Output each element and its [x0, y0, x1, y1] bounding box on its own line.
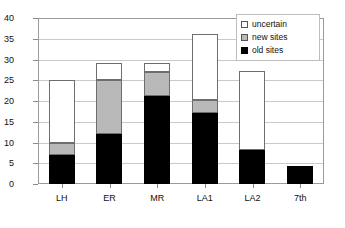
- x-axis-tick-mark: [253, 184, 254, 188]
- bar-segment-old-sites[interactable]: [239, 150, 265, 184]
- bar-slot: [86, 18, 134, 184]
- bar-segment-uncertain[interactable]: [144, 63, 170, 72]
- bar-segment-uncertain[interactable]: [49, 80, 75, 142]
- x-axis-label-la1: LA1: [178, 193, 232, 203]
- legend-item-new-sites: new sites: [241, 31, 315, 44]
- y-axis-tick-label: 30: [0, 56, 14, 65]
- square-black-swatch-icon: [241, 47, 248, 54]
- y-axis-tick-label: 20: [0, 97, 14, 106]
- x-axis-tick-mark: [205, 184, 206, 188]
- bar-slot: [181, 18, 229, 184]
- bar-segment-new-sites[interactable]: [96, 80, 122, 134]
- x-axis-tick-mark: [62, 184, 63, 188]
- chart-legend: uncertain new sites old sites: [236, 14, 320, 61]
- x-axis-label-er: ER: [83, 193, 137, 203]
- bar-7th[interactable]: [287, 166, 313, 184]
- bar-segment-uncertain[interactable]: [96, 63, 122, 80]
- stacked-bar-chart: 0510152025303540 LHERMRLA1LA27th uncerta…: [0, 0, 345, 228]
- bar-segment-uncertain[interactable]: [192, 34, 218, 100]
- bar-segment-old-sites[interactable]: [144, 96, 170, 184]
- bar-segment-old-sites[interactable]: [287, 166, 313, 184]
- bar-la1[interactable]: [192, 34, 218, 184]
- y-axis-tick-label: 25: [0, 76, 14, 85]
- square-gray-swatch-icon: [241, 34, 248, 41]
- x-axis-label-la2: LA2: [226, 193, 280, 203]
- legend-item-old-sites: old sites: [241, 44, 315, 57]
- x-axis-label-7th: 7th: [273, 193, 327, 203]
- legend-label: uncertain: [252, 20, 287, 29]
- bar-slot: [133, 18, 181, 184]
- legend-label: old sites: [252, 46, 283, 55]
- bar-er[interactable]: [96, 63, 122, 184]
- y-axis-tick-label: 0: [0, 180, 14, 189]
- bar-segment-new-sites[interactable]: [144, 72, 170, 96]
- bar-segment-new-sites[interactable]: [192, 100, 218, 112]
- bar-segment-new-sites[interactable]: [49, 143, 75, 155]
- bar-segment-old-sites[interactable]: [192, 113, 218, 184]
- x-axis-label-mr: MR: [130, 193, 184, 203]
- legend-item-uncertain: uncertain: [241, 18, 315, 31]
- bar-segment-uncertain[interactable]: [239, 71, 265, 150]
- y-axis-tick-label: 15: [0, 118, 14, 127]
- y-axis-tick-label: 10: [0, 139, 14, 148]
- bar-mr[interactable]: [144, 63, 170, 184]
- x-axis-tick-mark: [300, 184, 301, 188]
- square-white-swatch-icon: [241, 21, 248, 28]
- x-axis-label-lh: LH: [35, 193, 89, 203]
- bar-lh[interactable]: [49, 80, 75, 184]
- x-axis-tick-mark: [110, 184, 111, 188]
- y-axis-tick-label: 35: [0, 35, 14, 44]
- bar-segment-old-sites[interactable]: [96, 134, 122, 184]
- x-axis-tick-mark: [157, 184, 158, 188]
- y-axis-tick-label: 40: [0, 14, 14, 23]
- y-axis-tick-label: 5: [0, 159, 14, 168]
- y-axis-tick-mark: [33, 184, 38, 185]
- legend-label: new sites: [252, 33, 287, 42]
- bar-la2[interactable]: [239, 71, 265, 184]
- bar-segment-old-sites[interactable]: [49, 155, 75, 184]
- bar-slot: [38, 18, 86, 184]
